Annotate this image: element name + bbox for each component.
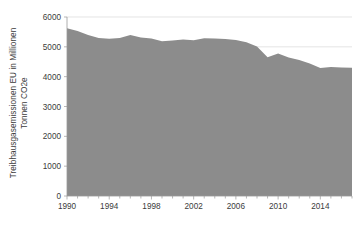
y-tick-labels: 0100020003000400050006000 <box>43 13 62 201</box>
y-tick-label-0: 0 <box>56 192 61 201</box>
y-tick-label-2000: 2000 <box>43 132 62 141</box>
greenhouse-gas-emissions-area-chart: Treibhausgasemissionen EU in Millionen T… <box>0 0 363 227</box>
y-tick-label-3000: 3000 <box>43 103 62 112</box>
x-tick-label-2014: 2014 <box>311 202 330 211</box>
x-tick-label-1994: 1994 <box>100 202 119 211</box>
area-fill <box>67 28 352 196</box>
x-tick-label-2010: 2010 <box>269 202 288 211</box>
x-tick-label-1998: 1998 <box>142 202 161 211</box>
y-tick-label-1000: 1000 <box>43 162 62 171</box>
y-tick-label-4000: 4000 <box>43 73 62 82</box>
x-tick-label-2006: 2006 <box>227 202 246 211</box>
chart-canvas: 0100020003000400050006000 19901994199820… <box>0 0 363 227</box>
plot-area: 0100020003000400050006000 19901994199820… <box>0 0 363 227</box>
x-tick-label-1990: 1990 <box>58 202 77 211</box>
x-tick-label-2002: 2002 <box>185 202 204 211</box>
x-tick-labels: 1990199419982002200620102014 <box>58 202 330 211</box>
emissions-area-series <box>67 28 352 196</box>
y-tick-label-6000: 6000 <box>43 13 62 22</box>
y-tick-label-5000: 5000 <box>43 43 62 52</box>
